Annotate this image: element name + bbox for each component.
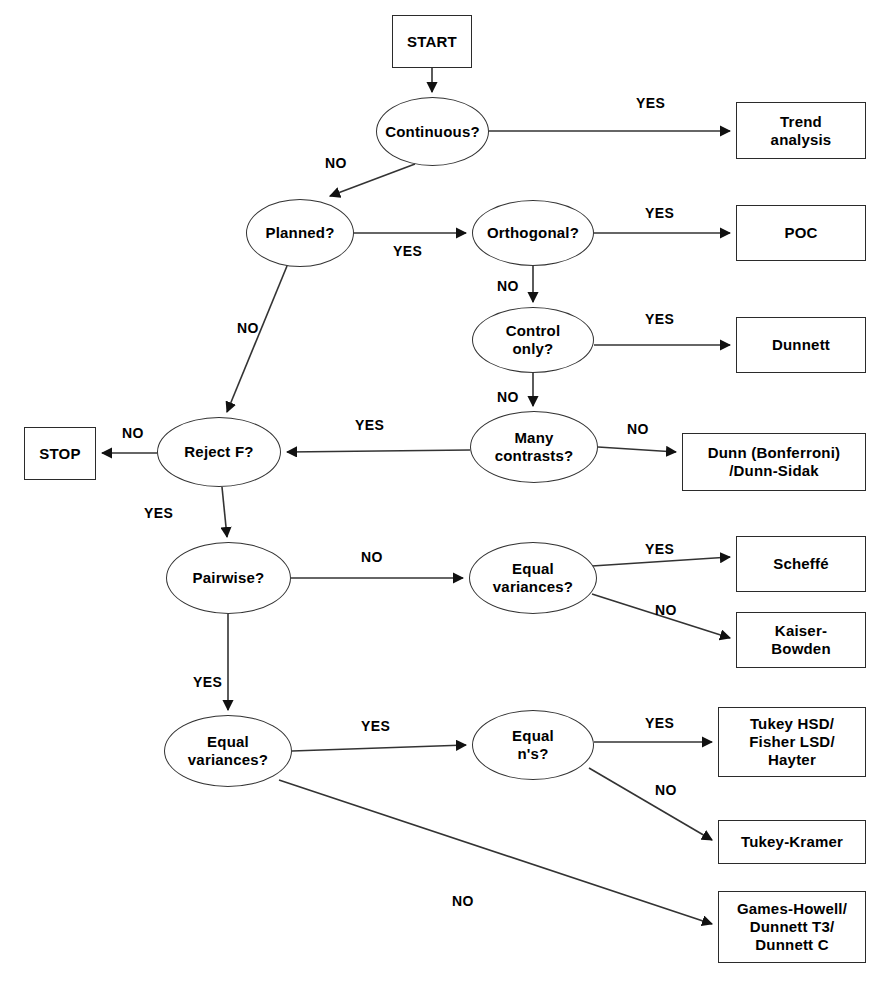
connector-equalns-to-tukeykramer [589, 768, 712, 840]
edge-label-pairwise-to-equal_var_1: NO [361, 549, 383, 565]
edge-label-reject_f-to-stop: NO [122, 425, 144, 441]
connector-many-to-dunn [598, 447, 676, 452]
edge-label-continuous-to-trend: YES [636, 95, 665, 111]
edge-label-equal_var_2-to-equal_ns: YES [361, 718, 390, 734]
node-continuous[interactable]: Continuous? [376, 97, 489, 166]
node-kaiser_bowden[interactable]: Kaiser- Bowden [736, 612, 866, 668]
node-equal_var_2[interactable]: Equal variances? [164, 715, 292, 787]
connector-equalvar1-to-scheffe [592, 557, 730, 566]
edge-label-pairwise-to-equal_var_2: YES [193, 674, 222, 690]
node-many_contrasts[interactable]: Many contrasts? [470, 411, 598, 483]
node-tukey_hsd[interactable]: Tukey HSD/ Fisher LSD/ Hayter [718, 707, 866, 777]
edge-label-equal_var_2-to-games_howell: NO [452, 893, 474, 909]
edge-label-control_only-to-many_contrasts: NO [497, 389, 519, 405]
connector-equalvar2-to-equalns [292, 745, 466, 751]
edge-label-control_only-to-dunnett: YES [645, 311, 674, 327]
node-reject_f[interactable]: Reject F? [157, 417, 281, 487]
connector-reject-f-to-pairwise [222, 487, 227, 537]
node-control_only[interactable]: Control only? [472, 307, 594, 373]
edge-label-many_contrasts-to-dunn: NO [627, 421, 649, 437]
node-equal_ns[interactable]: Equal n's? [472, 710, 594, 780]
edge-label-many_contrasts-to-reject_f: YES [355, 417, 384, 433]
edge-label-planned-to-orthogonal: YES [393, 243, 422, 259]
node-trend[interactable]: Trend analysis [736, 102, 866, 159]
node-dunnett[interactable]: Dunnett [736, 317, 866, 373]
edge-label-orthogonal-to-poc: YES [645, 205, 674, 221]
node-games_howell[interactable]: Games-Howell/ Dunnett T3/ Dunnett C [718, 891, 866, 963]
edge-label-equal_ns-to-tukey_kramer: NO [655, 782, 677, 798]
node-stop[interactable]: STOP [24, 427, 96, 480]
node-poc[interactable]: POC [736, 205, 866, 261]
node-scheffe[interactable]: Scheffé [736, 536, 866, 592]
node-planned[interactable]: Planned? [246, 199, 354, 267]
edge-label-equal_ns-to-tukey_hsd: YES [645, 715, 674, 731]
connector-many-to-reject-f [287, 450, 470, 452]
edge-label-planned-to-reject_f: NO [237, 320, 259, 336]
node-equal_var_1[interactable]: Equal variances? [469, 542, 597, 614]
node-pairwise[interactable]: Pairwise? [166, 542, 291, 614]
edge-label-orthogonal-to-control_only: NO [497, 278, 519, 294]
edge-label-reject_f-to-pairwise: YES [144, 505, 173, 521]
flowchart-canvas: STARTContinuous?Trend analysisPlanned?Or… [0, 0, 882, 992]
connector-planned-to-reject-f [227, 266, 287, 412]
node-dunn[interactable]: Dunn (Bonferroni) /Dunn-Sidak [682, 433, 866, 491]
edge-label-equal_var_1-to-scheffe: YES [645, 541, 674, 557]
node-tukey_kramer[interactable]: Tukey-Kramer [718, 820, 866, 864]
edge-label-continuous-to-planned: NO [325, 155, 347, 171]
edge-label-equal_var_1-to-kaiser_bowden: NO [655, 602, 677, 618]
node-orthogonal[interactable]: Orthogonal? [472, 200, 594, 266]
node-start[interactable]: START [392, 15, 472, 68]
